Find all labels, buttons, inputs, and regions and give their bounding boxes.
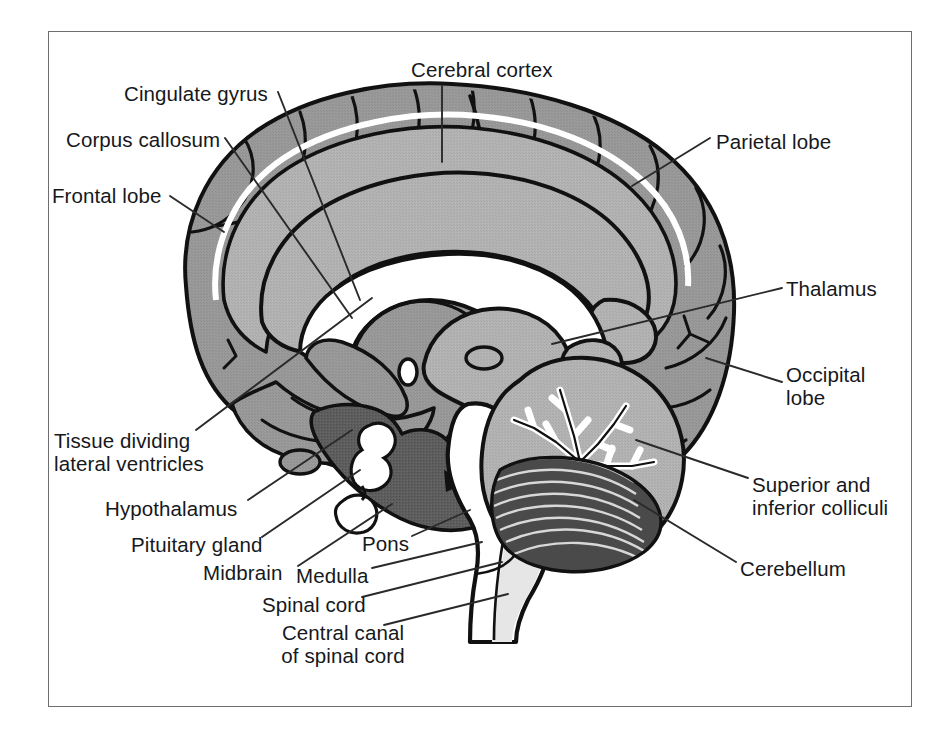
label-spinal-cord: Spinal cord: [262, 593, 366, 616]
label-tissue-line1: Tissue dividing: [54, 429, 190, 452]
label-colliculi-line1: Superior and: [752, 473, 871, 496]
label-superior-inferior-colliculi: Superior andinferior colliculi: [752, 473, 888, 519]
label-occipital-lobe: Occipitallobe: [786, 363, 866, 409]
label-cerebellum: Cerebellum: [740, 557, 846, 580]
label-corpus-callosum: Corpus callosum: [66, 128, 220, 151]
brain-diagram-figure: Cingulate gyrus Corpus callosum Frontal …: [0, 0, 933, 735]
label-occipital-lobe-line2: lobe: [786, 386, 825, 409]
label-frontal-lobe: Frontal lobe: [52, 184, 161, 207]
label-tissue-dividing-lateral-ventricles: Tissue dividinglateral ventricles: [54, 429, 204, 475]
label-cerebral-cortex: Cerebral cortex: [411, 58, 553, 81]
label-thalamus: Thalamus: [786, 277, 877, 300]
label-pituitary-gland: Pituitary gland: [131, 533, 262, 556]
uncus: [280, 450, 320, 474]
label-central-canal-line2: of spinal cord: [281, 644, 404, 667]
label-central-canal-of-spinal-cord: Central canalof spinal cord: [258, 621, 428, 667]
label-pons: Pons: [362, 532, 409, 555]
label-medulla: Medulla: [296, 564, 369, 587]
label-colliculi-line2: inferior colliculi: [752, 496, 888, 519]
massa-intermedia: [466, 347, 502, 369]
label-occipital-lobe-line1: Occipital: [786, 363, 866, 386]
label-cingulate-gyrus: Cingulate gyrus: [124, 82, 268, 105]
label-midbrain: Midbrain: [203, 561, 282, 584]
label-central-canal-line1: Central canal: [282, 621, 404, 644]
label-hypothalamus: Hypothalamus: [105, 497, 237, 520]
label-tissue-line2: lateral ventricles: [54, 452, 204, 475]
interventricular-foramen: [399, 359, 417, 385]
label-parietal-lobe: Parietal lobe: [716, 130, 831, 153]
